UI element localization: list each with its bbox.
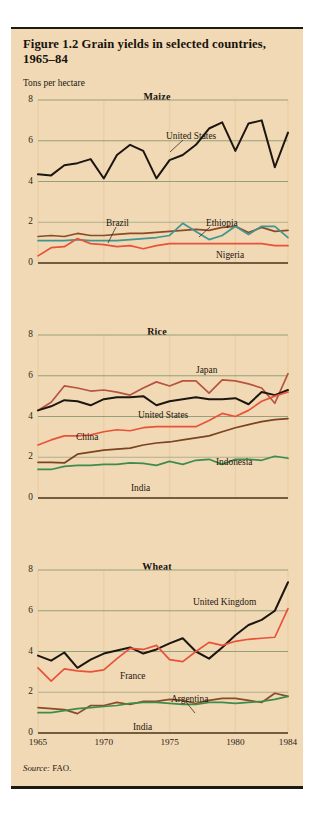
y-tick-rice-2: 2 bbox=[20, 451, 33, 461]
y-tick-wheat-6: 6 bbox=[20, 605, 33, 615]
x-axis-ticks: 19651970197519801984 bbox=[38, 737, 288, 749]
figure-container: Figure 1.2 Grain yields in selected coun… bbox=[11, 27, 303, 789]
panel-rice: Rice86420JapanUnited StatesChinaIndonesi… bbox=[11, 326, 303, 503]
y-tick-wheat-4: 4 bbox=[20, 646, 33, 656]
y-tick-maize-0: 0 bbox=[20, 257, 33, 267]
series-label-united-states: United States bbox=[138, 410, 188, 420]
series-label-japan: Japan bbox=[196, 365, 217, 375]
series-line-united-states bbox=[38, 390, 288, 410]
series-line-japan bbox=[38, 374, 288, 411]
series-label-india: India bbox=[133, 722, 152, 732]
figure-title: Figure 1.2 Grain yields in selected coun… bbox=[23, 37, 291, 67]
source-label: Source: bbox=[23, 763, 50, 773]
y-tick-wheat-0: 0 bbox=[20, 727, 33, 737]
series-label-france: France bbox=[120, 671, 146, 681]
series-label-china: China bbox=[76, 432, 98, 442]
y-tick-maize-8: 8 bbox=[20, 94, 33, 104]
x-tick-1984: 1984 bbox=[279, 737, 297, 747]
y-tick-rice-6: 6 bbox=[20, 370, 33, 380]
label-leader-wheat-0 bbox=[38, 570, 288, 733]
series-label-indonesia: Indonesia bbox=[216, 457, 252, 467]
y-tick-maize-4: 4 bbox=[20, 176, 33, 186]
y-tick-maize-2: 2 bbox=[20, 216, 33, 226]
panel-maize: Maize86420United StatesBrazilEthiopiaNig… bbox=[11, 91, 303, 268]
source-value: FAO. bbox=[50, 763, 71, 773]
y-tick-rice-0: 0 bbox=[20, 492, 33, 502]
series-label-india: India bbox=[131, 483, 150, 493]
y-tick-maize-6: 6 bbox=[20, 135, 33, 145]
y-tick-wheat-8: 8 bbox=[20, 564, 33, 574]
x-tick-1970: 1970 bbox=[95, 737, 113, 747]
series-label-united-kingdom: United Kingdom bbox=[193, 597, 256, 607]
series-label-brazil: Brazil bbox=[106, 218, 129, 228]
label-leader-maize-2 bbox=[38, 100, 288, 263]
panel-wheat: Wheat86420United KingdomFranceArgentinaI… bbox=[11, 561, 303, 738]
x-tick-1980: 1980 bbox=[226, 737, 244, 747]
y-tick-rice-4: 4 bbox=[20, 411, 33, 421]
series-label-ethiopia: Ethiopia bbox=[206, 218, 238, 228]
x-tick-1975: 1975 bbox=[160, 737, 178, 747]
x-tick-1965: 1965 bbox=[29, 737, 47, 747]
series-label-argentina: Argentina bbox=[171, 694, 208, 704]
source-note: Source: FAO. bbox=[23, 763, 71, 773]
series-label-nigeria: Nigeria bbox=[216, 250, 244, 260]
y-axis-caption: Tons per hectare bbox=[23, 78, 85, 88]
y-tick-wheat-2: 2 bbox=[20, 686, 33, 696]
series-label-united-states: United States bbox=[166, 131, 216, 141]
y-tick-rice-8: 8 bbox=[20, 329, 33, 339]
